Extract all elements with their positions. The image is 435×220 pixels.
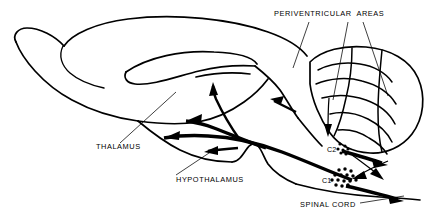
c1-cell-dot [348, 179, 352, 183]
c1-cell-dot [333, 173, 337, 177]
hypothalamus-outline [138, 121, 232, 162]
c2-cell-dot [338, 142, 341, 145]
corpus-callosum-outline [126, 52, 257, 72]
c1-cell-dot [343, 167, 347, 171]
c1-cell-dot [349, 169, 353, 173]
olfactory-fissure [61, 46, 104, 88]
thalamus-label: THALAMUS [96, 142, 141, 151]
cerebellum-folium-2 [316, 79, 396, 104]
c1-label: C1 [322, 176, 331, 185]
text-labels-group: PERIVENTRICULAR AREAS THALAMUS HYPOTHALA… [96, 9, 384, 209]
c1-cell-dot [346, 183, 350, 187]
cerebellum-group [310, 47, 423, 154]
c2-cell-dot [346, 147, 349, 150]
hypothalamus-leader [176, 151, 212, 175]
cerebellum-lobule-divider [378, 50, 382, 152]
cerebellum-vermis-branch [334, 48, 352, 136]
thalamus-outline [138, 79, 268, 124]
hippocampal-sweep [196, 73, 250, 77]
c1-cell-dot [340, 184, 344, 188]
hypothalamic-collateral-arrowhead [204, 146, 218, 155]
brain-outline-group [15, 17, 420, 200]
c1-cell-dot [345, 173, 349, 177]
c2-cell-dot [344, 152, 347, 155]
thalamus-leader [120, 92, 176, 143]
diagram-canvas: PERIVENTRICULAR AREAS THALAMUS HYPOTHALA… [0, 0, 435, 220]
spinal-cord-label: SPINAL CORD [300, 200, 356, 209]
c1-cell-dot [351, 174, 355, 178]
ascending-tract-main [164, 136, 352, 180]
c2-cell-dot [339, 151, 342, 154]
c1-cell-dot [342, 179, 346, 183]
brain-projection-diagram: PERIVENTRICULAR AREAS THALAMUS HYPOTHALA… [0, 0, 435, 220]
c1-cell-dot [337, 168, 341, 172]
periventricular-leader-3 [363, 22, 388, 96]
c1-cell-dot [336, 178, 340, 182]
c1-cell-dot [339, 173, 343, 177]
c2-cell-dot [341, 148, 344, 151]
periventricular-leader-2 [333, 22, 348, 100]
brainstem-ventral-line [296, 184, 420, 200]
cerebellum-folium-4 [330, 113, 392, 142]
c1-cell-dot [334, 183, 338, 187]
olfactory-bulb-outline [15, 28, 64, 46]
midbrain-projection-arrow [274, 101, 296, 112]
c2-label: C2 [327, 145, 336, 154]
thalamo-ascending-arrowhead [209, 82, 218, 96]
c1-cell-dot [354, 178, 358, 182]
corpus-callosum-inner [125, 66, 255, 85]
hypothalamus-label: HYPOTHALAMUS [176, 175, 244, 184]
c2-cell-dot [336, 147, 339, 150]
medulla-upper-boundary [298, 118, 322, 146]
cerebral-cortex-outline [64, 17, 307, 56]
periventricular-areas-label: PERIVENTRICULAR AREAS [274, 9, 384, 18]
ventral-cortex-outline [16, 42, 138, 121]
c2-cell-dot [343, 144, 346, 147]
